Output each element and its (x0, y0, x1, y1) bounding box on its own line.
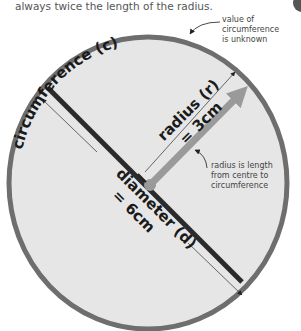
circumference-note-line: is unknown (222, 35, 300, 45)
circumference-note: value of circumference is unknown (222, 15, 300, 45)
circumference-note-arrow (190, 22, 220, 34)
circumference-note-line: circumference (222, 25, 300, 35)
circumference-note-line: value of (222, 15, 300, 25)
radius-note-line: radius is length (211, 161, 301, 171)
radius-note: radius is length from centre to circumfe… (211, 161, 301, 191)
radius-note-line: circumference (211, 181, 301, 191)
radius-note-line: from centre to (211, 171, 301, 181)
